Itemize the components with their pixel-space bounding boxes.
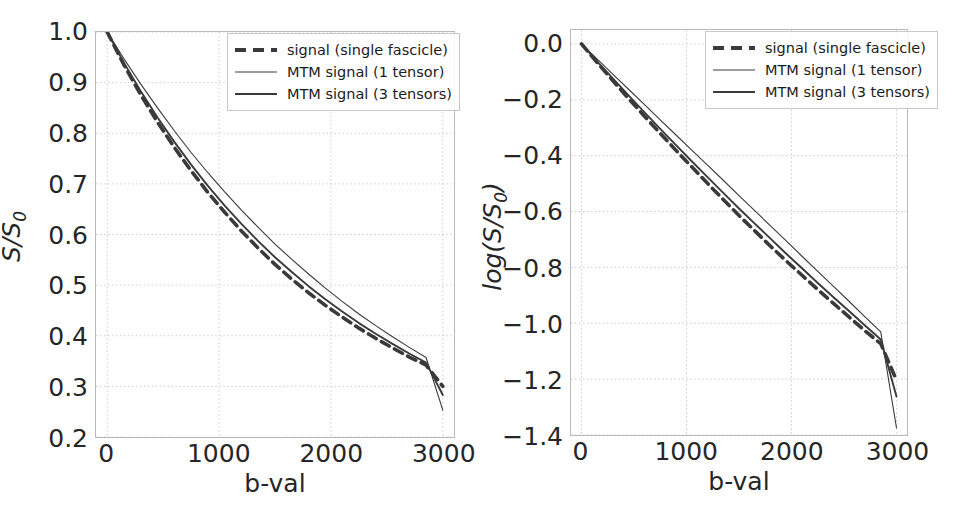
legend-item: MTM signal (3 tensors) bbox=[712, 81, 930, 103]
y-axis-tick-label: 0.5 bbox=[48, 273, 88, 298]
legend-line-medium-icon bbox=[234, 87, 278, 101]
y-axis-tick-labels-left: 0.20.30.40.50.60.70.80.91.0 bbox=[30, 0, 88, 517]
y-axis-tick-label: −1.2 bbox=[502, 367, 563, 392]
x-axis-label-left: b-val bbox=[244, 469, 305, 498]
legend-label: signal (single fascicle) bbox=[765, 41, 926, 56]
legend-right: signal (single fascicle) MTM signal (1 t… bbox=[705, 31, 938, 109]
figure-canvas: 0.20.30.40.50.60.70.80.91.0 signal (sing… bbox=[0, 0, 966, 517]
x-axis-tick-label: 1000 bbox=[187, 441, 251, 466]
y-axis-label-right: log(S/S0) bbox=[478, 182, 511, 291]
x-axis-tick-label: 0 bbox=[98, 441, 114, 466]
y-axis-tick-label: 0.6 bbox=[48, 222, 88, 247]
legend-line-dashed-icon bbox=[234, 43, 278, 57]
legend-line-thin-icon bbox=[234, 65, 278, 79]
y-axis-tick-label: −0.8 bbox=[502, 255, 563, 280]
x-axis-label-right: b-val bbox=[708, 467, 769, 496]
y-axis-tick-label: −1.0 bbox=[502, 311, 563, 336]
chart-panel-right: −1.4−1.2−1.0−0.8−0.6−0.4−0.20.0 signal (… bbox=[483, 0, 966, 517]
legend-item: MTM signal (3 tensors) bbox=[234, 83, 452, 105]
legend-label: MTM signal (3 tensors) bbox=[765, 85, 930, 100]
y-axis-tick-label: 0.2 bbox=[48, 426, 88, 451]
y-axis-tick-label: 0.7 bbox=[48, 171, 88, 196]
legend-label: MTM signal (1 tensor) bbox=[765, 63, 922, 78]
chart-panel-left: 0.20.30.40.50.60.70.80.91.0 signal (sing… bbox=[0, 0, 483, 517]
y-axis-tick-label: 0.9 bbox=[48, 69, 88, 94]
y-axis-label-sub-right: 0 bbox=[491, 192, 511, 203]
legend-item: MTM signal (1 tensor) bbox=[234, 61, 452, 83]
legend-item: MTM signal (1 tensor) bbox=[712, 59, 930, 81]
legend-label: signal (single fascicle) bbox=[287, 43, 448, 58]
y-axis-label-base-right: log(S/S bbox=[478, 203, 507, 291]
x-axis-tick-label: 1000 bbox=[654, 439, 718, 464]
x-axis-tick-label: 3000 bbox=[412, 441, 476, 466]
legend-label: MTM signal (1 tensor) bbox=[287, 65, 444, 80]
y-axis-tick-label: −0.6 bbox=[502, 199, 563, 224]
y-axis-tick-label: −0.2 bbox=[502, 87, 563, 112]
legend-line-medium-icon bbox=[712, 85, 756, 99]
y-axis-tick-label: 0.4 bbox=[48, 324, 88, 349]
y-axis-tick-label: −1.4 bbox=[502, 424, 563, 449]
y-axis-label-close-right: ) bbox=[478, 182, 507, 192]
y-axis-label-sub-left: 0 bbox=[10, 211, 30, 222]
legend-line-dashed-icon bbox=[712, 41, 756, 55]
y-axis-tick-label: −0.4 bbox=[502, 143, 563, 168]
y-axis-tick-label: 1.0 bbox=[48, 19, 88, 44]
x-axis-tick-label: 3000 bbox=[866, 439, 930, 464]
y-axis-tick-label: 0.3 bbox=[48, 375, 88, 400]
legend-label: MTM signal (3 tensors) bbox=[287, 87, 452, 102]
y-axis-label-left: S/S0 bbox=[0, 211, 30, 262]
x-axis-tick-label: 2000 bbox=[760, 439, 824, 464]
legend-line-thin-icon bbox=[712, 63, 756, 77]
x-axis-tick-label: 2000 bbox=[299, 441, 363, 466]
y-axis-tick-label: 0.8 bbox=[48, 120, 88, 145]
y-axis-label-base-left: S/S bbox=[0, 222, 26, 262]
legend-item: signal (single fascicle) bbox=[712, 37, 930, 59]
legend-left: signal (single fascicle) MTM signal (1 t… bbox=[227, 33, 460, 111]
y-axis-tick-label: 0.0 bbox=[523, 31, 563, 56]
x-axis-tick-label: 0 bbox=[573, 439, 589, 464]
legend-item: signal (single fascicle) bbox=[234, 39, 452, 61]
